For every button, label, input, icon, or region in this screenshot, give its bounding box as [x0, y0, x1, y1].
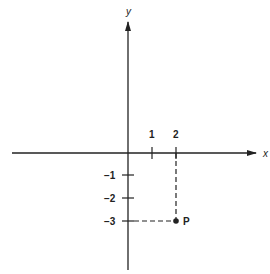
y-tick-label: −1 [104, 170, 116, 181]
y-tick-minus-3: −3 [104, 216, 134, 227]
y-tick-label: −2 [104, 193, 116, 204]
point-p [173, 218, 179, 224]
point-label: P [183, 216, 190, 227]
x-tick-label: 2 [173, 129, 179, 140]
x-tick-label: 1 [149, 129, 155, 140]
coordinate-plane: x y 1 2 −1 −2 −3 P [0, 0, 270, 274]
x-tick-1: 1 [149, 129, 155, 159]
y-tick-label: −3 [104, 216, 116, 227]
x-axis-label: x [262, 148, 269, 159]
y-axis-label: y [125, 6, 132, 17]
y-tick-minus-1: −1 [104, 170, 134, 181]
y-tick-minus-2: −2 [104, 193, 134, 204]
